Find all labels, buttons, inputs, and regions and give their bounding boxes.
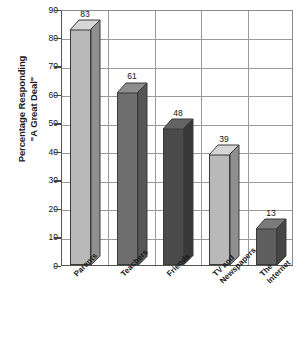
- y-tick-mark: [54, 266, 61, 268]
- y-tick-mark: [54, 180, 61, 182]
- y-tick-mark: [54, 123, 61, 125]
- gridline-vertical: [201, 11, 202, 265]
- bar-top-face: [117, 83, 138, 92]
- y-axis-title: Percentage Responding "A Great Deal": [15, 34, 41, 184]
- bar-friends[interactable]: [163, 128, 184, 265]
- y-tick-mark: [54, 38, 61, 40]
- bar-teachers[interactable]: [117, 92, 138, 266]
- y-tick-mark: [54, 237, 61, 239]
- y-axis-title-line-2: "A Great Deal": [28, 77, 40, 141]
- y-axis-title-line-1: Percentage Responding: [16, 56, 28, 163]
- bar-side-face: [138, 92, 147, 266]
- bar-value-label: 61: [127, 72, 136, 81]
- bar-top-face: [70, 20, 91, 29]
- gridline-vertical: [108, 11, 109, 265]
- bar-front-face: [117, 92, 138, 266]
- y-tick-mark: [54, 10, 61, 12]
- bar-chart-figure: Percentage Responding "A Great Deal" 908…: [0, 0, 307, 339]
- gridline-vertical: [155, 11, 156, 265]
- bar-front-face: [209, 154, 230, 265]
- y-tick-mark: [54, 66, 61, 68]
- bar-top-face: [163, 119, 184, 128]
- y-tick-mark: [54, 95, 61, 97]
- bar-side-face: [91, 29, 100, 265]
- y-tick-mark: [54, 152, 61, 154]
- bar-value-label: 39: [219, 135, 228, 144]
- y-tick-mark: [54, 209, 61, 211]
- bar-top-face: [209, 145, 230, 154]
- bar-parents[interactable]: [70, 29, 91, 265]
- bar-front-face: [163, 128, 184, 265]
- bar-front-face: [70, 29, 91, 265]
- bar-value-label: 83: [80, 10, 89, 19]
- bar-value-label: 48: [173, 109, 182, 118]
- bar-tv-and-newspapers[interactable]: [209, 154, 230, 265]
- gridline-vertical: [248, 11, 249, 265]
